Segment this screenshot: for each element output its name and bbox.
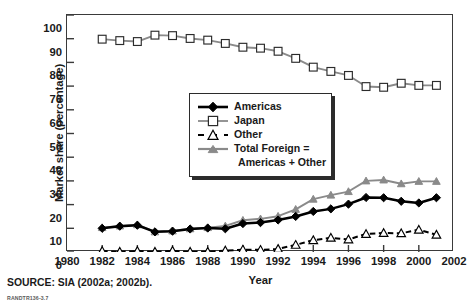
x-tick-label: 2000 <box>406 256 431 267</box>
x-tick-label: 1982 <box>90 256 115 267</box>
y-axis-title: Market share (percentage) <box>53 0 65 298</box>
x-tick-label: 1994 <box>301 256 326 267</box>
x-tick-label: 1984 <box>125 256 150 267</box>
x-tick-label: 2002 <box>441 256 466 267</box>
legend-label-total-foreign: Total Foreign = <box>234 143 309 154</box>
open-square-marker <box>196 114 230 128</box>
legend-label-other: Other <box>234 129 262 140</box>
legend-item-other: Other <box>196 128 324 142</box>
x-tick-label: 1996 <box>336 256 361 267</box>
x-tick-label: 1986 <box>160 256 185 267</box>
filled-triangle-marker <box>196 142 230 156</box>
legend-item-total-foreign: Total Foreign = <box>196 142 324 156</box>
series-total <box>98 176 440 235</box>
legend-item-americas: Americas <box>196 100 324 114</box>
x-tick-label: 1988 <box>195 256 220 267</box>
legend-label-americas: Americas <box>234 101 282 112</box>
figure-id: RANDTR136-3.7 <box>7 295 48 301</box>
series-japan <box>98 31 440 91</box>
source-note: SOURCE: SIA (2002a; 2002b). <box>7 277 152 288</box>
market-share-figure: 0102030405060708090100198019821984198619… <box>0 0 475 307</box>
x-tick-label: 1998 <box>371 256 396 267</box>
x-tick-label: 1990 <box>230 256 255 267</box>
legend-item-total-foreign-line2: Americas + Other <box>196 156 324 170</box>
legend-label-total-foreign-continued: Americas + Other <box>238 157 326 168</box>
legend-item-japan: Japan <box>196 114 324 128</box>
open-triangle-marker <box>196 128 230 142</box>
chart-legend: Americas Japan Other <box>189 93 332 177</box>
filled-diamond-marker <box>196 100 230 114</box>
x-tick-label: 1992 <box>266 256 291 267</box>
series-americas <box>98 193 440 236</box>
legend-label-japan: Japan <box>234 115 265 126</box>
